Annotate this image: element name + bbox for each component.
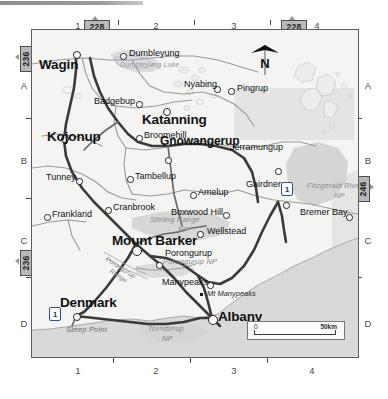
adjoining-sheet-left-upper-label: 236: [22, 52, 32, 67]
label-wagin[interactable]: Wagin: [39, 58, 78, 72]
grid-row-label-b: B: [18, 155, 30, 166]
grid-tick-bottom-1: [113, 358, 114, 363]
grid-tick-bottom-3: [267, 358, 268, 363]
label-cranbrook[interactable]: Cranbrook: [113, 203, 155, 212]
label-tunney[interactable]: Tunney: [46, 173, 76, 182]
highway-shield-jerramungup-label: 1: [285, 185, 289, 194]
town-dot-gnowangerup[interactable]: [165, 157, 172, 164]
label-mt-manypeaks: Mt Manypeaks: [207, 290, 256, 298]
town-dot-badgebup[interactable]: [136, 101, 143, 108]
scale-bar-min-label: 0: [254, 323, 258, 330]
label-torndirrup-np-line1: Torndirrup: [148, 325, 184, 333]
grid-row-label-d-right: D: [362, 318, 374, 329]
grid-column-label-2-bottom: 2: [149, 365, 163, 376]
label-dumbleyung-lake: Dumbleyung Lake: [120, 61, 179, 68]
label-bremer-bay[interactable]: Bremer Bay: [300, 208, 348, 217]
town-dot-jerramungup[interactable]: [275, 168, 282, 175]
town-dot-wellstead[interactable]: [197, 231, 204, 238]
town-dot-albany[interactable]: [208, 315, 218, 325]
grid-column-label-1-bottom: 1: [71, 365, 85, 376]
label-nyabing[interactable]: Nyabing: [184, 80, 217, 89]
label-steep-point: Steep Point: [66, 326, 107, 334]
label-fitzgerald-river-np-line1: Fitzgerald River: [307, 182, 359, 190]
grid-tick-top-3: [270, 20, 271, 25]
grid-row-label-d: D: [18, 318, 30, 329]
adjoining-sheet-left-lower-arrow-icon: [15, 258, 19, 264]
label-denmark[interactable]: Denmark: [60, 296, 117, 310]
grid-tick-top-1: [118, 20, 119, 25]
adjoining-sheet-top-right-arrow-icon: [289, 16, 295, 20]
grid-row-label-b-right: B: [362, 155, 374, 166]
grid-tick-top-2: [194, 20, 195, 25]
grid-row-label-a: A: [18, 80, 30, 91]
scale-bar: 0 50km: [247, 321, 345, 340]
label-amelup[interactable]: Amelup: [198, 188, 229, 197]
label-stirling-range-np-line1: Stirling Range: [150, 216, 200, 224]
town-dot-tunney[interactable]: [76, 178, 83, 185]
map-frame[interactable]: 1 1 Wagin Dumbleyung Dumbleyung Lake Nya…: [31, 29, 359, 358]
adjoining-sheet-left-lower-label: 236: [22, 256, 32, 271]
label-gairdner[interactable]: Gairdner: [246, 180, 281, 189]
top-gray-bar: [0, 1, 143, 5]
label-tambellup[interactable]: Tambellup: [135, 172, 176, 181]
town-dot-amelup[interactable]: [190, 192, 197, 199]
scale-bar-rule: [254, 330, 336, 335]
label-pingrup[interactable]: Pingrup: [237, 84, 268, 93]
label-frankland[interactable]: Frankland: [52, 210, 92, 219]
label-manypeaks[interactable]: Manypeaks: [162, 278, 208, 287]
town-dot-cranbrook[interactable]: [105, 207, 112, 214]
adjoining-sheet-left-upper-arrow-icon: [15, 54, 19, 60]
label-torndirrup-np-line2: NP: [162, 335, 173, 343]
label-porongurup-np: Porongurup NP: [163, 258, 217, 266]
town-dot-denmark[interactable]: [73, 313, 81, 321]
town-dot-boxwood-hill[interactable]: [223, 212, 230, 219]
highway-shield-denmark-label: 1: [53, 310, 57, 319]
town-dot-tambellup[interactable]: [127, 176, 134, 183]
label-dumbleyung[interactable]: Dumbleyung: [129, 49, 180, 58]
label-katanning[interactable]: Katanning: [142, 113, 207, 127]
town-dot-broomehill[interactable]: [136, 135, 143, 142]
highway-shield-jerramungup[interactable]: 1: [281, 182, 293, 196]
label-mount-barker[interactable]: Mount Barker: [112, 234, 197, 248]
label-kojonup[interactable]: Kojonup: [47, 130, 101, 144]
grid-row-label-c-right: C: [362, 235, 374, 246]
north-arrow: N: [245, 42, 285, 76]
label-badgebup[interactable]: Badgebup: [94, 97, 135, 106]
grid-column-label-3-bottom: 3: [227, 365, 241, 376]
label-wellstead[interactable]: Wellstead: [207, 227, 246, 236]
grid-row-label-a-right: A: [362, 80, 374, 91]
scale-bar-max-label: 50km: [320, 323, 337, 330]
label-stirling-range-np-line2: NP: [178, 226, 189, 234]
town-dot-dumbleyung[interactable]: [120, 53, 127, 60]
adjoining-sheet-right-label: 246: [359, 182, 369, 197]
town-dot-gairdner[interactable]: [283, 202, 290, 209]
town-dot-frankland[interactable]: [44, 214, 51, 221]
adjoining-sheet-right-arrow-icon: [370, 184, 374, 190]
map-page: 1 2 3 4 228 228 A B C D 236 236 A B C D …: [0, 0, 388, 399]
label-jerramungup[interactable]: Jerramungup: [230, 143, 283, 152]
north-arrow-label: N: [245, 56, 285, 71]
label-gnowangerup[interactable]: Gnowangerup: [160, 135, 240, 147]
label-fitzgerald-river-np-line2: NP: [334, 192, 345, 200]
grid-tick-bottom-2: [190, 358, 191, 363]
grid-row-label-c: C: [18, 235, 30, 246]
town-dot-pingrup[interactable]: [228, 88, 235, 95]
peak-marker-mt-manypeaks: [200, 293, 203, 296]
adjoining-sheet-top-left-arrow-icon: [92, 16, 98, 20]
town-dot-porongurup[interactable]: [156, 262, 163, 269]
grid-column-label-4-bottom: 4: [305, 365, 319, 376]
